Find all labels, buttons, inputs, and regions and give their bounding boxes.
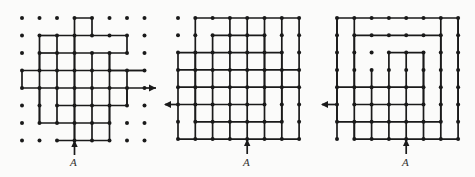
figure-1-exit-arrow-right (145, 85, 157, 92)
figure-3-exit-arrow-left (321, 101, 337, 108)
figure-3-canvas (315, 0, 475, 177)
figure-2: A (160, 0, 315, 177)
diagram-page: A (0, 0, 475, 177)
figure-2-label-a: A (243, 156, 250, 168)
figure-2-canvas (160, 0, 315, 177)
figure-1-label-a: A (70, 156, 77, 168)
figure-3-label-a: A (402, 156, 409, 168)
figure-1-entry-arrow-up (71, 140, 77, 155)
figure-2-entry-arrow-up (244, 139, 250, 154)
figure-1: A (0, 0, 160, 177)
figure-3-entry-arrow-up (403, 139, 409, 154)
figure-2-exit-arrow-left (164, 101, 178, 108)
figure-3: A (315, 0, 475, 177)
figure-1-canvas (0, 0, 160, 177)
